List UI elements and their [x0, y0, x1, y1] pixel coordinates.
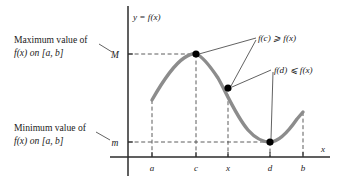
leader-fc-to-x: [231, 40, 256, 86]
max-note-line-1: Maximum value of: [14, 34, 88, 45]
point-x: [224, 84, 231, 91]
callout-label-max: f(c) ⩾ f(x): [258, 33, 296, 43]
marked-points: [192, 50, 273, 145]
y-axis-label: y = f(x): [132, 12, 161, 22]
point-min-d: [266, 138, 273, 145]
x-tick-label-b: b: [301, 163, 306, 173]
axes: [110, 6, 330, 176]
callout-label-min: f(d) ⩽ f(x): [274, 65, 313, 75]
side-note-leaders: [96, 44, 112, 140]
leader-fd-to-x: [232, 70, 271, 87]
leader-min-note: [96, 132, 110, 140]
point-max-c: [192, 50, 199, 57]
x-axis-label: x: [320, 144, 325, 154]
x-tick-label-x: x: [225, 163, 230, 173]
x-tick-label-d: d: [268, 163, 273, 173]
max-note-line-2: f(x) on [a, b]: [14, 47, 64, 59]
extreme-value-theorem-figure: y = f(x) x M m a c x d b f(c) ⩾ f(x) f(d…: [0, 0, 339, 180]
leader-fd-to-d: [271, 72, 273, 139]
figure-canvas: y = f(x) x M m a c x d b f(c) ⩾ f(x) f(d…: [0, 0, 339, 180]
x-tick-label-a: a: [150, 163, 155, 173]
min-note-line-2: f(x) on [a, b]: [14, 135, 64, 147]
level-label-m: m: [112, 138, 119, 148]
level-label-M: M: [110, 50, 120, 60]
min-note-line-1: Minimum value of: [14, 122, 87, 133]
leader-fc-to-c: [199, 38, 256, 54]
x-tick-label-c: c: [194, 163, 198, 173]
callout-leaders-min: [232, 70, 273, 139]
